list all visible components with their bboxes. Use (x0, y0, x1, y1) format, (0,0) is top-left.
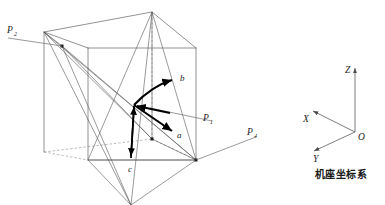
figure-root: P 2 P 1 P 4 a b c Z X Y O 机座坐标系 (0, 0, 385, 205)
label-p2: P 2 (6, 25, 17, 37)
label-axis-y: Y (313, 154, 320, 164)
label-vector-c: c (128, 164, 132, 174)
label-origin-o: O (358, 132, 365, 142)
vector-c-up-arrow (131, 107, 134, 158)
hidden-edge-bottom-left-diag (44, 152, 88, 160)
diagonal-13 (131, 160, 196, 205)
axis-x-line (313, 111, 355, 132)
diagonal-7 (88, 12, 152, 160)
diagonal-9 (62, 46, 196, 160)
label-p4-base: P (246, 127, 253, 137)
cube-edge-back-top (44, 12, 152, 32)
hidden-edge-bottom-back (44, 139, 152, 152)
cube-edge-top-right-diag (152, 12, 196, 48)
axis-y-line (314, 132, 355, 151)
label-p4-sub: 4 (254, 133, 257, 139)
diagonal-11 (62, 46, 131, 205)
figure-caption: 机座坐标系 (303, 166, 379, 181)
cube-internal-diagonals (44, 12, 196, 205)
diagonal-3 (44, 32, 131, 205)
label-p1-sub: 1 (210, 119, 213, 125)
label-vector-b: b (180, 73, 185, 83)
label-p2-base: P (6, 25, 13, 35)
coordinate-frame (313, 68, 355, 151)
node-mid-bottom (151, 138, 154, 141)
label-p2-sub: 2 (14, 31, 17, 37)
label-axis-x: X (302, 114, 310, 124)
label-p1: P 1 (202, 113, 213, 125)
label-p4: P 4 (246, 127, 257, 139)
diagonal-14 (88, 160, 131, 205)
label-vector-a: a (177, 130, 182, 140)
label-axis-z: Z (345, 65, 351, 75)
vector-b-arrow (134, 80, 172, 105)
diagonal-15 (152, 139, 196, 160)
diagonal-10 (62, 46, 152, 139)
leader-p4 (196, 137, 256, 160)
label-p1-base: P (202, 113, 209, 123)
